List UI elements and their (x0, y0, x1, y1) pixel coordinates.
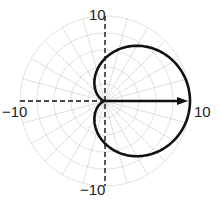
arrow-vector (105, 97, 188, 105)
grid-spoke (23, 79, 105, 101)
tick-label-bottom: −10 (80, 181, 105, 198)
grid-spoke (105, 101, 127, 183)
grid-spoke (105, 101, 148, 175)
grid-spoke (63, 27, 106, 101)
grid-spoke (105, 27, 148, 101)
tick-label-top: 10 (89, 6, 106, 23)
grid-spoke (23, 101, 105, 123)
dashed-axes (20, 16, 105, 186)
polar-plot: 10 −10 −10 10 (0, 0, 220, 200)
grid-spoke (105, 101, 187, 123)
tick-label-left: −10 (2, 103, 27, 120)
grid-spoke (63, 101, 106, 175)
grid-spoke (105, 101, 179, 144)
grid-spoke (105, 59, 179, 102)
tick-label-right: 10 (194, 103, 211, 120)
grid-spoke (105, 79, 187, 101)
grid-spoke (105, 19, 127, 101)
arrowhead-icon (177, 97, 188, 105)
